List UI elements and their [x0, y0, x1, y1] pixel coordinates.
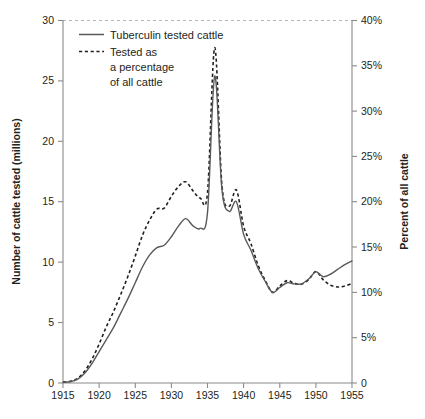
right-tick-label-40: 40% — [361, 14, 382, 26]
right-tick-label-35: 35% — [361, 59, 382, 71]
legend-label-tuberculin-tested-cattle: Tuberculin tested cattle — [110, 29, 223, 41]
x-tick-label-1925: 1925 — [124, 389, 148, 401]
right-tick-label-25: 25% — [361, 150, 382, 162]
right-tick-label-5: 5% — [361, 331, 376, 343]
bottom-axis-ticks — [63, 383, 352, 388]
right-axis-title: Percent of all cattle — [398, 153, 410, 249]
left-tick-label-0: 0 — [48, 377, 54, 389]
legend-label-tested-as-percentage-line2: a percentage — [110, 61, 174, 73]
left-axis-title: Number of cattle tested (millions) — [10, 118, 22, 284]
right-tick-label-30: 30% — [361, 105, 382, 117]
legend-label-tested-as-percentage-line3: of all cattle — [110, 76, 163, 88]
x-tick-label-1930: 1930 — [160, 389, 184, 401]
left-axis-tick-labels: 30 25 20 15 10 5 0 — [42, 14, 54, 389]
x-tick-label-1915: 1915 — [51, 389, 75, 401]
right-tick-label-20: 20% — [361, 195, 382, 207]
bottom-axis-tick-labels: 1915 1920 1925 1930 1935 1940 1945 1950 … — [51, 389, 364, 401]
line-chart: 30 25 20 15 10 5 0 40% 35% 30% 25% 20% — [0, 0, 425, 419]
right-axis-tick-labels: 40% 35% 30% 25% 20% 15% 10% 5% 0 — [361, 14, 382, 389]
left-tick-label-15: 15 — [42, 195, 54, 207]
left-tick-label-10: 10 — [42, 256, 54, 268]
chart-legend: Tuberculin tested cattle Tested as a per… — [79, 29, 223, 88]
right-tick-label-15: 15% — [361, 241, 382, 253]
x-tick-label-1950: 1950 — [304, 389, 328, 401]
legend-label-tested-as-percentage-line1: Tested as — [110, 46, 158, 58]
right-tick-label-0: 0 — [361, 377, 367, 389]
x-tick-label-1945: 1945 — [268, 389, 292, 401]
left-tick-label-25: 25 — [42, 74, 54, 86]
left-tick-label-30: 30 — [42, 14, 54, 26]
x-tick-label-1920: 1920 — [87, 389, 111, 401]
left-axis-ticks — [58, 21, 63, 384]
series-line-tuberculin-tested-cattle — [63, 76, 352, 382]
x-tick-label-1935: 1935 — [196, 389, 220, 401]
left-tick-label-20: 20 — [42, 135, 54, 147]
chart-container: 30 25 20 15 10 5 0 40% 35% 30% 25% 20% — [0, 0, 425, 419]
right-tick-label-10: 10% — [361, 286, 382, 298]
x-tick-label-1940: 1940 — [232, 389, 256, 401]
left-tick-label-5: 5 — [48, 316, 54, 328]
x-tick-label-1955: 1955 — [340, 389, 364, 401]
right-axis-ticks — [352, 21, 357, 384]
